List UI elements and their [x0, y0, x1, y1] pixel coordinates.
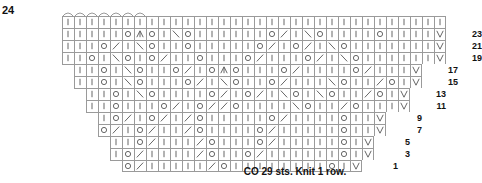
symbol-| — [159, 17, 170, 28]
symbol-| — [123, 17, 134, 28]
symbol-| — [255, 77, 266, 88]
symbol-| — [171, 137, 182, 148]
chart-cell — [422, 52, 434, 64]
symbol-V — [435, 53, 445, 64]
symbol-| — [267, 101, 278, 112]
chart-cell — [266, 112, 278, 124]
chart-cell — [278, 64, 290, 76]
chart-cell — [134, 16, 146, 28]
chart-cell — [110, 40, 122, 52]
chart-cell — [206, 64, 218, 76]
chart-cell — [134, 100, 146, 112]
symbol-\ — [123, 77, 134, 88]
symbol-| — [387, 29, 398, 40]
chart-cell — [398, 88, 410, 100]
symbol-| — [399, 17, 410, 28]
symbol-O — [231, 101, 242, 112]
symbol-| — [183, 89, 194, 100]
symbol-/ — [291, 65, 302, 76]
symbol-O — [267, 77, 278, 88]
symbol-| — [87, 65, 98, 76]
symbol-O — [147, 41, 158, 52]
row-number-3: 3 — [392, 148, 410, 160]
chart-cell — [218, 16, 230, 28]
symbol-| — [87, 29, 98, 40]
chart-cell — [170, 124, 182, 136]
chart-cell — [146, 28, 158, 40]
chart-cell — [302, 124, 314, 136]
chart-cell — [362, 28, 374, 40]
chart-cell — [134, 124, 146, 136]
chart-cell — [314, 136, 326, 148]
symbol-O — [387, 77, 398, 88]
symbol-/ — [219, 89, 230, 100]
chart-row-9 — [98, 112, 386, 124]
symbol-O — [255, 137, 266, 148]
symbol-| — [411, 53, 422, 64]
chart-cell — [206, 100, 218, 112]
chart-cell — [242, 136, 254, 148]
symbol-/ — [219, 101, 230, 112]
chart-cell — [350, 16, 362, 28]
chart-cell — [290, 88, 302, 100]
chart-cell — [122, 52, 134, 64]
symbol-| — [219, 149, 230, 160]
chart-cell — [158, 112, 170, 124]
symbol-O — [195, 53, 206, 64]
chart-cell — [350, 148, 362, 160]
symbol-| — [387, 53, 398, 64]
chart-cell — [182, 124, 194, 136]
chart-cell — [230, 76, 242, 88]
step-edge-bottom — [110, 160, 122, 161]
symbol-| — [435, 17, 445, 28]
symbol-/ — [195, 77, 206, 88]
symbol-| — [75, 53, 86, 64]
symbol-| — [243, 137, 254, 148]
symbol-O — [375, 29, 386, 40]
symbol-| — [243, 113, 254, 124]
chart-cell — [122, 124, 134, 136]
chart-cell — [206, 88, 218, 100]
chart-cell — [350, 64, 362, 76]
symbol-\ — [291, 101, 302, 112]
symbol-| — [303, 149, 314, 160]
symbol-| — [291, 149, 302, 160]
symbol-| — [279, 125, 290, 136]
symbol-| — [363, 17, 374, 28]
symbol-| — [147, 149, 158, 160]
symbol-| — [147, 17, 158, 28]
symbol-| — [315, 65, 326, 76]
symbol-O — [195, 101, 206, 112]
chart-cell — [326, 16, 338, 28]
chart-cell — [266, 124, 278, 136]
chart-cell — [146, 112, 158, 124]
symbol-| — [351, 149, 362, 160]
chart-cell — [410, 28, 422, 40]
chart-cell — [110, 16, 122, 28]
chart-cell — [230, 16, 242, 28]
chart-cell — [62, 52, 74, 64]
symbol-| — [207, 113, 218, 124]
chart-cell — [98, 76, 110, 88]
chart-cell — [182, 52, 194, 64]
symbol-V — [435, 41, 445, 52]
symbol-/ — [183, 125, 194, 136]
symbol-| — [267, 65, 278, 76]
chart-cell — [242, 88, 254, 100]
symbol-| — [123, 137, 134, 148]
symbol-| — [87, 41, 98, 52]
symbol-\ — [315, 89, 326, 100]
chart-cell — [254, 64, 266, 76]
chart-cell — [86, 16, 98, 28]
chart-cell — [362, 40, 374, 52]
symbol-/ — [255, 89, 266, 100]
symbol-| — [111, 17, 122, 28]
chart-cell — [110, 136, 122, 148]
chart-cell — [146, 16, 158, 28]
chart-cell — [98, 16, 110, 28]
symbol-| — [231, 137, 242, 148]
chart-cell — [74, 52, 86, 64]
symbol-| — [195, 65, 206, 76]
chart-cell — [398, 16, 410, 28]
